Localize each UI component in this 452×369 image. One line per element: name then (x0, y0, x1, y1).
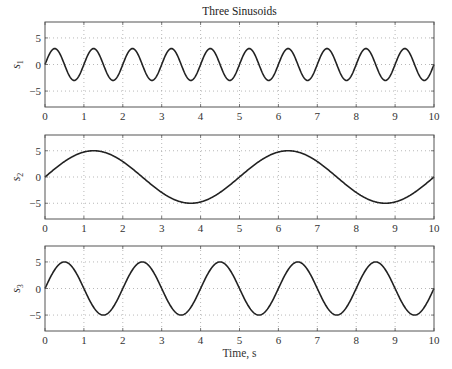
x-tick-label: 3 (159, 334, 165, 346)
y-tick-label: 5 (36, 145, 42, 157)
y-tick-label: 5 (36, 32, 42, 44)
x-tick-label: 1 (81, 222, 87, 234)
x-tick-label: 1 (81, 110, 87, 122)
panel-2: 012345678910−505s2 (9, 135, 440, 234)
x-tick-labels: 012345678910 (42, 334, 440, 346)
x-tick-label: 0 (42, 334, 48, 346)
y-axis-label: s2 (9, 173, 25, 182)
y-tick-label: 5 (36, 256, 42, 268)
x-tick-label: 5 (237, 222, 243, 234)
x-tick-label: 7 (315, 110, 321, 122)
x-tick-label: 3 (159, 222, 165, 234)
x-tick-label: 8 (353, 334, 359, 346)
x-tick-label: 7 (315, 222, 321, 234)
y-tick-label: −5 (29, 85, 41, 97)
x-tick-label: 10 (429, 222, 441, 234)
y-tick-label: 0 (36, 59, 42, 71)
x-tick-label: 3 (159, 110, 165, 122)
panel-3: 012345678910−505s3 (9, 246, 440, 346)
series-line-s1 (45, 49, 434, 81)
x-tick-labels: 012345678910 (42, 222, 440, 234)
y-axis-label: s1 (9, 60, 25, 69)
x-tick-label: 4 (198, 222, 204, 234)
x-tick-label: 1 (81, 334, 87, 346)
y-tick-label: −5 (29, 309, 41, 321)
x-tick-label: 9 (392, 110, 398, 122)
x-tick-label: 5 (237, 334, 243, 346)
panel-1: 012345678910−505s1 (9, 22, 440, 122)
x-tick-label: 6 (276, 334, 282, 346)
chart-title: Three Sinusoids (202, 5, 277, 17)
x-tick-label: 2 (120, 110, 126, 122)
y-tick-label: −5 (29, 197, 41, 209)
x-tick-label: 2 (120, 222, 126, 234)
x-tick-label: 4 (198, 334, 204, 346)
x-axis-label: Time, s (222, 347, 257, 360)
x-tick-label: 6 (276, 222, 282, 234)
y-tick-labels: −505 (29, 145, 41, 210)
y-axis-label: s3 (9, 284, 25, 293)
x-tick-label: 0 (42, 222, 48, 234)
three-sinusoids-figure: Three Sinusoids 012345678910−505s1012345… (0, 0, 452, 369)
series-line-s3 (45, 262, 434, 315)
x-tick-label: 6 (276, 110, 282, 122)
panels: 012345678910−505s1012345678910−505s20123… (9, 22, 440, 346)
x-tick-label: 0 (42, 110, 48, 122)
y-tick-labels: −505 (29, 32, 41, 97)
y-tick-label: 0 (36, 283, 42, 295)
x-tick-label: 9 (392, 222, 398, 234)
x-tick-label: 10 (429, 110, 441, 122)
x-tick-label: 8 (353, 222, 359, 234)
x-tick-label: 7 (315, 334, 321, 346)
x-tick-label: 4 (198, 110, 204, 122)
x-tick-label: 5 (237, 110, 243, 122)
x-tick-label: 9 (392, 334, 398, 346)
y-tick-label: 0 (36, 171, 42, 183)
x-tick-label: 10 (429, 334, 441, 346)
x-tick-labels: 012345678910 (42, 110, 440, 122)
y-tick-labels: −505 (29, 256, 41, 321)
x-tick-label: 2 (120, 334, 126, 346)
x-tick-label: 8 (353, 110, 359, 122)
